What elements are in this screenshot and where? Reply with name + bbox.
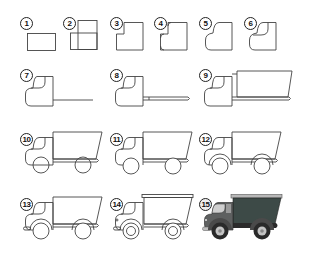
cab-with-chassis-line [25,76,95,110]
cab-window-shape [249,22,281,56]
cab-outline-shape [116,22,148,56]
colored-dump-truck [202,194,286,240]
truck-with-wheels-outline [25,131,105,175]
cab-rectangles-shape [70,20,102,54]
truck-detailed-outline [113,194,197,240]
truck-with-fenders [204,131,284,175]
truck-with-bumper [23,196,107,240]
rounded-cab-shape [205,22,237,56]
cab-with-chassis-bar [115,76,195,110]
rectangle-shape [27,33,57,53]
step-number-badge: 1 [20,17,33,30]
cab-with-cargo-bed [204,70,294,110]
truck-with-wheels [115,131,195,175]
cab-corners-shape [160,22,192,56]
